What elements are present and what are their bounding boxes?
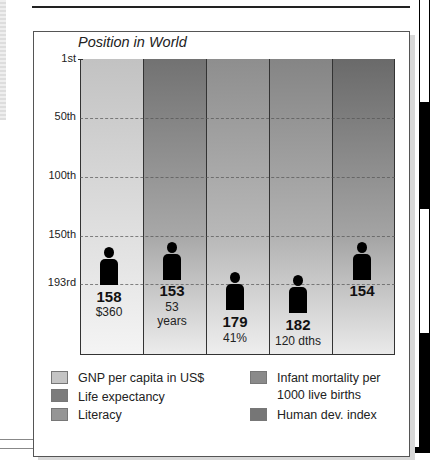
x-axis-line	[80, 354, 395, 355]
person-icon	[225, 272, 245, 310]
y-tick-1st: 1st	[36, 52, 76, 64]
legend-label-infant-mortality-1: Infant mortality per	[277, 370, 381, 386]
y-tick-mark	[78, 59, 83, 60]
legend-swatch-life-expectancy	[51, 389, 68, 402]
gridline-150th	[80, 236, 395, 237]
legend-label-human-dev-index: Human dev. index	[277, 407, 377, 423]
detail-life-expectancy-2: years	[137, 314, 207, 328]
detail-infant-mortality: 120 dths	[263, 334, 333, 348]
bar-human-dev-index	[332, 59, 395, 354]
person-icon	[99, 247, 119, 285]
legend-label-infant-mortality-2: 1000 live births	[277, 387, 361, 403]
detail-gnp: $360	[74, 305, 144, 319]
legend-label-life-expectancy: Life expectancy	[78, 389, 165, 405]
legend-swatch-human-dev-index	[250, 408, 267, 421]
y-tick-100th: 100th	[36, 169, 76, 181]
person-icon	[162, 242, 182, 280]
person-icon	[288, 275, 308, 313]
rank-literacy: 179	[205, 313, 265, 330]
y-tick-50th: 50th	[36, 110, 76, 122]
y-tick-193rd: 193rd	[36, 276, 76, 288]
detail-literacy: 41%	[200, 331, 270, 345]
gridline-50th	[80, 118, 395, 119]
rank-infant-mortality: 182	[268, 316, 328, 333]
y-tick-150th: 150th	[36, 228, 76, 240]
legend-label-literacy: Literacy	[78, 407, 122, 423]
gridline-100th	[80, 177, 395, 178]
legend-label-gnp: GNP per capita in US$	[78, 370, 204, 386]
person-icon	[352, 242, 372, 280]
detail-life-expectancy-1: 53	[137, 300, 207, 314]
rank-human-dev-index: 154	[332, 282, 392, 299]
rank-gnp: 158	[79, 288, 139, 305]
legend-swatch-infant-mortality	[250, 371, 267, 384]
top-rule	[32, 6, 410, 8]
page-edge-tabs	[419, 0, 430, 460]
legend-swatch-literacy	[51, 408, 68, 421]
legend-swatch-gnp	[51, 371, 68, 384]
page-edge-decoration	[0, 0, 6, 120]
rank-life-expectancy: 153	[142, 282, 202, 299]
chart-title: Position in World	[78, 34, 187, 50]
